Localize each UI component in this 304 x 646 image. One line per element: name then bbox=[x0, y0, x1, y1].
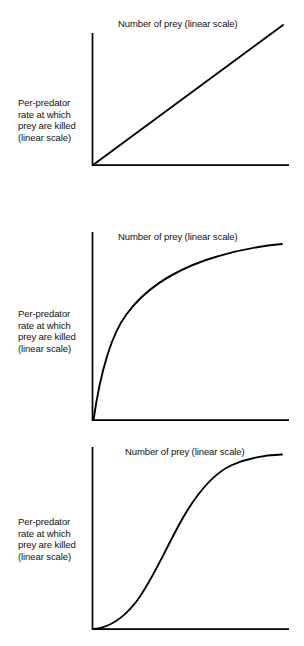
panel-2-type-ii-curve bbox=[94, 244, 283, 420]
panel-type-iii: Number of prey (linear scale) Per-predat… bbox=[0, 430, 304, 646]
panel-2-plot bbox=[88, 215, 294, 430]
panel-type-ii: Number of prey (linear scale) Per-predat… bbox=[0, 215, 304, 430]
panel-1-plot bbox=[88, 0, 294, 215]
panel-type-i: Number of prey (linear scale) Per-predat… bbox=[0, 0, 304, 215]
functional-response-figure: Number of prey (linear scale) Per-predat… bbox=[0, 0, 304, 646]
panel-3-plot bbox=[88, 430, 294, 646]
panel-1-type-i-curve bbox=[93, 25, 283, 165]
panel-3-type-iii-curve bbox=[93, 455, 282, 630]
